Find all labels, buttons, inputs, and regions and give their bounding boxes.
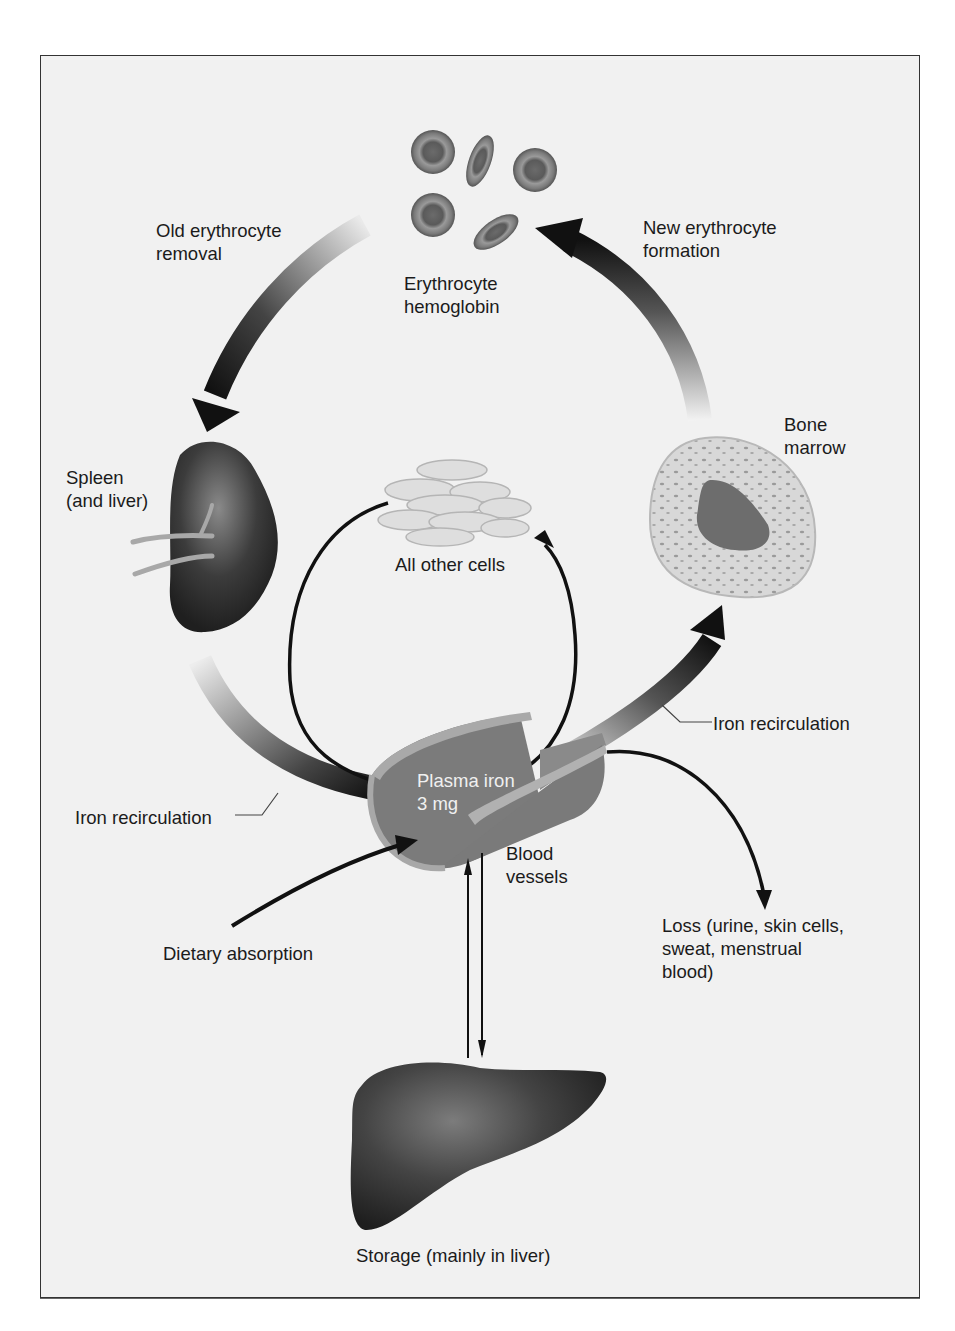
old-erythrocyte-removal-label: Old erythrocyteremoval	[156, 219, 281, 265]
new-erythrocyte-formation-label: New erythrocyteformation	[643, 216, 777, 262]
diagram-artwork	[0, 0, 955, 1331]
liver-icon	[351, 1062, 606, 1230]
spleen-label: Spleen(and liver)	[66, 466, 148, 512]
cell-cluster-icon	[378, 460, 531, 546]
all-other-cells-label: All other cells	[395, 553, 505, 576]
iron-recirculation-left-label: Iron recirculation	[75, 806, 212, 829]
plasma-iron-label: Plasma iron3 mg	[417, 769, 515, 815]
blood-vessels-label: Bloodvessels	[506, 842, 568, 888]
loss-label: Loss (urine, skin cells,sweat, menstrual…	[662, 914, 844, 983]
iron-recirculation-right-label: Iron recirculation	[713, 712, 850, 735]
storage-exchange-arrows-icon	[464, 853, 486, 1058]
dietary-absorption-label: Dietary absorption	[163, 942, 313, 965]
bone-marrow-label: Bonemarrow	[784, 413, 846, 459]
red-blood-cells-icon	[411, 130, 557, 257]
spleen-icon	[133, 442, 278, 632]
bone-marrow-cell-icon	[650, 437, 815, 597]
erythrocyte-hemoglobin-label: Erythrocytehemoglobin	[404, 272, 500, 318]
dietary-absorption-arrow-icon	[232, 835, 418, 926]
loss-arrow-icon	[607, 751, 772, 910]
storage-label: Storage (mainly in liver)	[356, 1244, 550, 1267]
